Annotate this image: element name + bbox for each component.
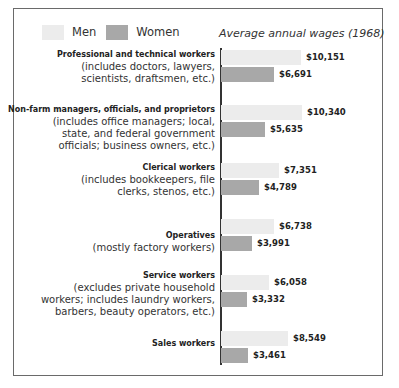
category-label: Clerical workers(includes bookkeepers, f…	[81, 162, 215, 198]
bar-women	[221, 180, 259, 195]
legend-swatch-men	[42, 25, 64, 40]
value-label-women: $6,691	[279, 67, 312, 82]
value-label-women: $4,789	[264, 180, 297, 195]
category-description: clerks, stenos, etc.)	[81, 186, 215, 198]
value-label-men: $6,058	[274, 275, 307, 290]
category-label: Non-farm managers, officials, and propri…	[8, 104, 215, 152]
category-label: Service workers(excludes private househo…	[41, 270, 215, 318]
category-name: Professional and technical workers	[57, 49, 215, 61]
value-label-women: $3,991	[257, 236, 290, 251]
legend: Men Women	[42, 24, 190, 40]
bar-women	[221, 122, 265, 137]
bar-women	[221, 67, 274, 82]
bar-men	[221, 219, 274, 234]
category-description: scientists, draftsmen, etc.)	[57, 73, 215, 85]
category-description: (includes bookkeepers, file	[81, 174, 215, 186]
category-description: (mostly factory workers)	[93, 242, 215, 254]
category-description: barbers, beauty operators, etc.)	[41, 306, 215, 318]
value-label-men: $10,340	[307, 105, 346, 120]
category-description: (excludes private household	[41, 282, 215, 294]
legend-label-men: Men	[72, 25, 96, 39]
category-name: Sales workers	[152, 338, 215, 350]
value-label-men: $10,151	[306, 50, 345, 65]
bar-men	[221, 275, 269, 290]
category-name: Service workers	[41, 270, 215, 282]
legend-label-women: Women	[136, 25, 179, 39]
value-label-men: $6,738	[279, 219, 312, 234]
category-description: workers; includes laundry workers,	[41, 294, 215, 306]
legend-swatch-women	[106, 25, 128, 40]
category-description: officials; business owners, etc.)	[8, 140, 215, 152]
value-label-women: $3,461	[253, 348, 286, 363]
bar-men	[221, 163, 279, 178]
bar-men	[221, 50, 301, 65]
bar-men	[221, 105, 302, 120]
bar-women	[221, 348, 248, 363]
value-label-women: $5,635	[270, 122, 303, 137]
category-description: (includes doctors, lawyers,	[57, 61, 215, 73]
chart-title: Average annual wages (1968)	[219, 27, 385, 40]
value-label-men: $7,351	[284, 163, 317, 178]
category-label: Operatives(mostly factory workers)	[93, 230, 215, 254]
value-label-men: $8,549	[293, 331, 326, 346]
bar-men	[221, 331, 288, 346]
category-name: Non-farm managers, officials, and propri…	[8, 104, 215, 116]
category-name: Clerical workers	[81, 162, 215, 174]
value-label-women: $3,332	[252, 292, 285, 307]
category-name: Operatives	[93, 230, 215, 242]
category-description: state, and federal government	[8, 128, 215, 140]
category-description: (includes office managers; local,	[8, 116, 215, 128]
y-axis-line	[220, 48, 222, 365]
category-label: Professional and technical workers(inclu…	[57, 49, 215, 85]
category-label: Sales workers	[152, 338, 215, 350]
bar-women	[221, 292, 247, 307]
bar-women	[221, 236, 252, 251]
